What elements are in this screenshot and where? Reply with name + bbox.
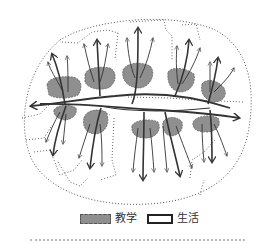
legend-item-living: 生活	[147, 211, 199, 227]
teaching-zone-lower-3	[132, 120, 159, 138]
figure-caption-cropped	[30, 236, 245, 244]
living-swatch-icon	[147, 214, 173, 224]
teaching-zone-lower-5	[193, 116, 219, 132]
legend-label-teaching: 教学	[115, 211, 137, 227]
caption-cropped-text	[30, 239, 245, 243]
legend-item-teaching: 教学	[80, 211, 137, 227]
teaching-zone-lower-4	[163, 118, 183, 137]
legend-label-living: 生活	[177, 211, 199, 227]
teaching-swatch-icon	[80, 214, 111, 224]
legend: 教学 生活	[0, 211, 271, 227]
campus-flow-diagram	[0, 0, 271, 244]
